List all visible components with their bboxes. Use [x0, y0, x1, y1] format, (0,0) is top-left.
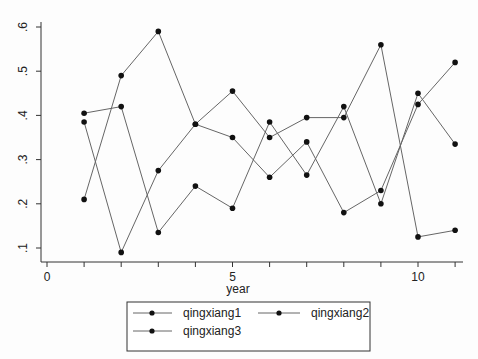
data-point-marker: [341, 210, 347, 216]
data-point-marker: [267, 135, 273, 141]
data-point-marker: [156, 230, 162, 236]
y-tick-label: .2: [16, 198, 30, 208]
data-point-marker: [156, 29, 162, 35]
y-tick-label: .1: [16, 243, 30, 253]
data-point-marker: [378, 188, 384, 194]
data-point-marker: [378, 42, 384, 48]
data-point-marker: [452, 228, 458, 234]
data-point-marker: [267, 119, 273, 125]
data-point-marker: [193, 121, 199, 127]
data-point-marker: [156, 168, 162, 174]
y-tick-label: .4: [16, 110, 30, 120]
data-point-marker: [415, 91, 421, 97]
data-point-marker: [415, 102, 421, 108]
y-tick-label: .5: [16, 66, 30, 76]
data-point-marker: [341, 104, 347, 110]
data-point-marker: [452, 60, 458, 66]
data-point-marker: [230, 205, 236, 211]
data-point-marker: [378, 201, 384, 207]
data-point-marker: [193, 183, 199, 189]
legend-marker-icon: [276, 310, 281, 315]
x-tick-label: 0: [44, 270, 51, 284]
data-point-marker: [304, 115, 310, 121]
data-point-marker: [452, 141, 458, 147]
legend: qingxiang1 qingxiang2 qingxiang3: [127, 302, 370, 351]
data-point-marker: [304, 172, 310, 178]
legend-label: qingxiang1: [183, 306, 241, 320]
data-point-marker: [118, 250, 124, 256]
data-point-marker: [267, 175, 273, 181]
y-tick-label: .3: [16, 154, 30, 164]
x-axis-ticks: 0510: [44, 262, 455, 284]
y-axis-ticks: .1.2.3.4.5.6: [16, 22, 41, 253]
data-point-marker: [415, 234, 421, 240]
data-point-marker: [81, 197, 87, 203]
legend-marker-icon: [149, 310, 154, 315]
data-point-marker: [230, 135, 236, 141]
data-point-marker: [341, 115, 347, 121]
data-point-marker: [81, 119, 87, 125]
data-point-marker: [230, 88, 236, 94]
data-point-marker: [304, 139, 310, 145]
x-tick-label: 10: [411, 270, 425, 284]
legend-label: qingxiang3: [183, 324, 241, 338]
data-point-marker: [118, 104, 124, 110]
legend-marker-icon: [149, 328, 154, 333]
data-point-marker: [118, 73, 124, 79]
data-point-marker: [81, 110, 87, 116]
y-tick-label: .6: [16, 22, 30, 32]
line-chart: .1.2.3.4.5.6 0510 year qingxiang1 qingxi…: [0, 0, 478, 359]
plot-series-group: [84, 31, 455, 252]
legend-label: qingxiang2: [311, 306, 369, 320]
x-axis-title: year: [226, 282, 249, 296]
